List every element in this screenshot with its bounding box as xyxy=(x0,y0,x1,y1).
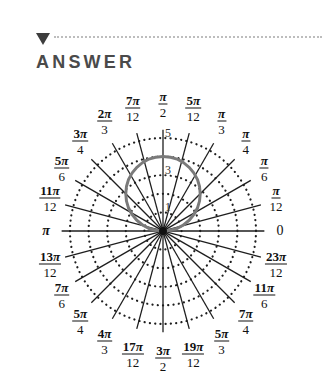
fraction-denominator: 3 xyxy=(218,122,225,136)
angle-label: 3π4 xyxy=(72,127,88,156)
angle-label: 7π4 xyxy=(238,306,254,335)
fraction-numerator: 17π xyxy=(122,339,144,354)
fraction-denominator: 4 xyxy=(242,142,249,156)
fraction-denominator: 12 xyxy=(43,199,56,213)
fraction-numerator: 5π xyxy=(72,306,88,321)
fraction-denominator: 12 xyxy=(187,109,200,123)
angle-label: π6 xyxy=(260,153,269,182)
fraction-numerator: 3π xyxy=(72,127,88,142)
angle-label: π3 xyxy=(217,107,226,136)
fraction-denominator: 3 xyxy=(101,341,108,355)
fraction-numerator: π xyxy=(217,107,226,122)
fraction-denominator: 6 xyxy=(58,168,65,182)
fraction-numerator: 5π xyxy=(214,326,230,341)
fraction-numerator: π xyxy=(241,127,250,142)
fraction-numerator: 4π xyxy=(97,326,113,341)
angle-label: 17π12 xyxy=(122,339,144,368)
fraction-denominator: 3 xyxy=(218,341,225,355)
radial-label: 3 xyxy=(165,162,171,177)
fraction-denominator: 2 xyxy=(160,105,167,119)
fraction-denominator: 12 xyxy=(126,109,139,123)
angle-label: 7π12 xyxy=(125,94,141,123)
fraction-denominator: 2 xyxy=(160,359,167,373)
fraction-numerator: 7π xyxy=(125,94,141,109)
fraction-denominator: 6 xyxy=(261,168,268,182)
angle-label: 7π6 xyxy=(54,280,70,309)
fraction-numerator: π xyxy=(158,90,167,105)
fraction-denominator: 4 xyxy=(77,321,84,335)
fraction-denominator: 6 xyxy=(58,295,65,309)
radial-label: 1 xyxy=(165,200,171,215)
fraction-denominator: 3 xyxy=(101,122,108,136)
angle-label: 5π3 xyxy=(214,326,230,355)
fraction-numerator: 19π xyxy=(182,339,204,354)
fraction-denominator: 4 xyxy=(77,142,84,156)
fraction-numerator: 3π xyxy=(155,344,171,359)
fraction-numerator: π xyxy=(260,153,269,168)
pole-point xyxy=(159,227,167,235)
fraction-numerator: 2π xyxy=(97,107,113,122)
angle-label: π xyxy=(42,223,50,239)
angle-label: 4π3 xyxy=(97,326,113,355)
fraction-denominator: 4 xyxy=(242,321,249,335)
angle-label: 3π2 xyxy=(155,344,171,373)
angle-label: 2π3 xyxy=(97,107,113,136)
angle-label: π2 xyxy=(158,90,167,119)
fraction-numerator: 5π xyxy=(54,153,70,168)
fraction-numerator: 7π xyxy=(54,280,70,295)
radial-label: 5 xyxy=(165,125,171,140)
angle-label: 5π6 xyxy=(54,153,70,182)
fraction-denominator: 12 xyxy=(126,354,139,368)
fraction-numerator: 11π xyxy=(254,280,275,295)
angle-label: 23π12 xyxy=(265,249,287,278)
angle-label: π12 xyxy=(270,184,283,213)
angle-label: 11π6 xyxy=(254,280,275,309)
angle-label: 0 xyxy=(277,223,284,239)
angle-label: π4 xyxy=(241,127,250,156)
fraction-denominator: 12 xyxy=(270,199,283,213)
angle-label: 11π12 xyxy=(39,184,60,213)
fraction-numerator: π xyxy=(271,184,280,199)
fraction-denominator: 12 xyxy=(187,354,200,368)
fraction-numerator: 13π xyxy=(39,249,61,264)
fraction-numerator: 23π xyxy=(265,249,287,264)
fraction-denominator: 6 xyxy=(261,295,268,309)
fraction-denominator: 12 xyxy=(43,264,56,278)
angle-label: 19π12 xyxy=(182,339,204,368)
angle-label: 5π4 xyxy=(72,306,88,335)
fraction-denominator: 12 xyxy=(269,264,282,278)
angle-label: 5π12 xyxy=(185,94,201,123)
fraction-numerator: 11π xyxy=(39,184,60,199)
fraction-numerator: 5π xyxy=(185,94,201,109)
angle-label: 13π12 xyxy=(39,249,61,278)
fraction-numerator: 7π xyxy=(238,306,254,321)
